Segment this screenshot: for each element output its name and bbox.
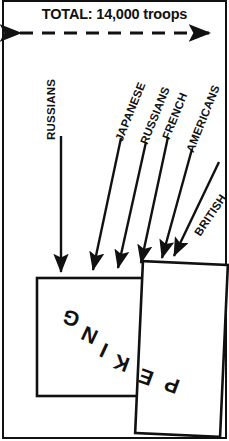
peking-assault-diagram: TOTAL: 14,000 troops xyxy=(0,0,229,441)
arrow-french xyxy=(141,137,168,263)
peking-inner-wall xyxy=(135,261,228,437)
arrow-americans xyxy=(162,149,192,258)
diagram-vector-layer xyxy=(0,0,229,441)
arrow-russians-east xyxy=(118,142,146,268)
arrow-japanese xyxy=(93,138,121,270)
force-label-russians-north: RUSSIANS xyxy=(45,79,57,140)
